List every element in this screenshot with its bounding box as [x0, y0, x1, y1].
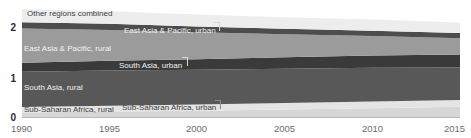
x-tick-1990: 1990: [11, 124, 32, 134]
area-band-south-asia-rural: [22, 68, 460, 107]
series-label-east-asia-pacific-rural: East Asia & Pacific, rural: [24, 44, 111, 53]
x-tick-1995: 1995: [99, 124, 120, 134]
series-label-sub-saharan-africa-urban: Sub-Saharan Africa, urban: [122, 103, 216, 112]
y-tick-2: 2: [0, 23, 16, 33]
series-label-east-asia-pacific-urban: East Asia & Pacific, urban: [124, 26, 216, 35]
series-label-south-asia-urban: South Asia, urban: [119, 61, 182, 70]
series-label-sub-saharan-africa-rural: Sub-Saharan Africa, rural: [24, 105, 114, 114]
chart-root: 0 1 2 1990 1995 2000 2005 2010 2015 Othe…: [0, 0, 471, 138]
series-label-other-regions-combined: Other regions combined: [27, 9, 112, 18]
x-tick-2005: 2005: [274, 124, 295, 134]
x-tick-2015: 2015: [444, 124, 465, 134]
x-axis-line: [22, 117, 460, 118]
stacked-area-plot: [22, 2, 460, 117]
x-tick-2000: 2000: [186, 124, 207, 134]
x-tick-2010: 2010: [362, 124, 383, 134]
y-tick-1: 1: [0, 74, 16, 84]
series-label-south-asia-rural: South Asia, rural: [24, 83, 83, 92]
y-tick-0: 0: [0, 113, 16, 123]
area-series-group: [22, 2, 460, 117]
